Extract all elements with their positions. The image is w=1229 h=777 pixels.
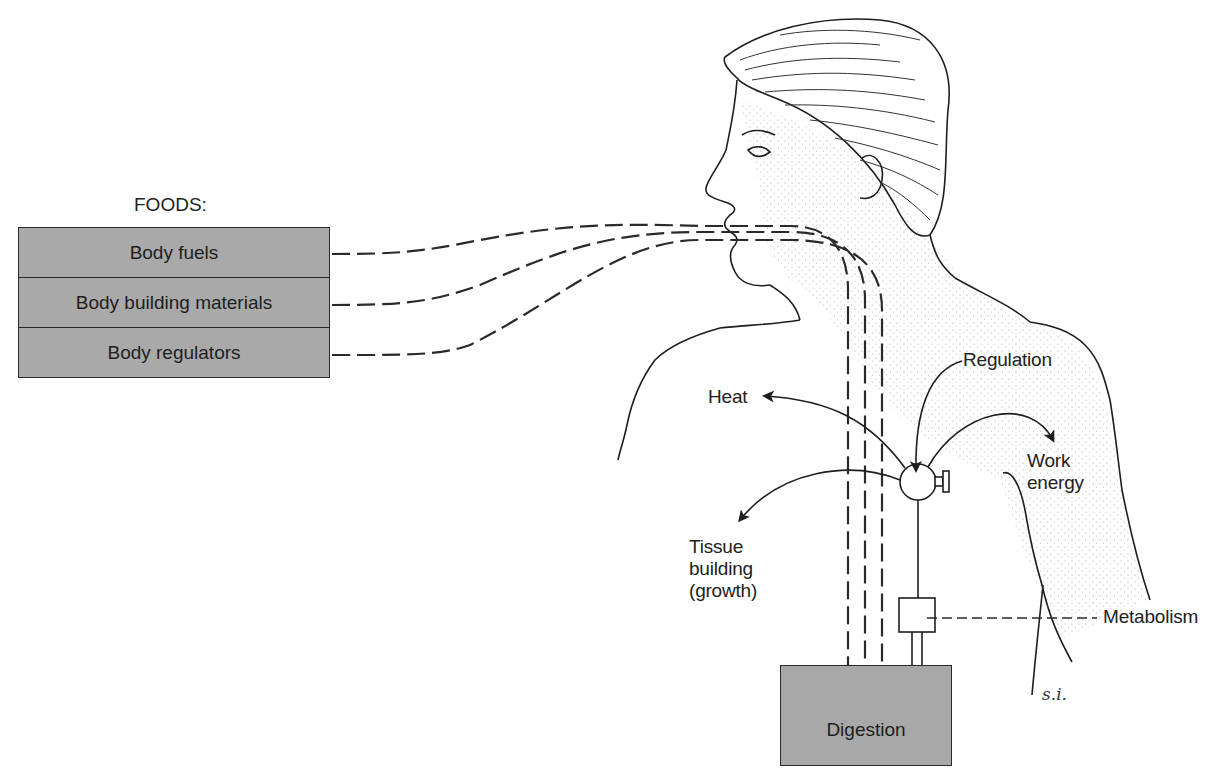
tissue-arrow	[740, 470, 900, 520]
label-digestion: Digestion	[826, 719, 905, 741]
artist-signature: s.i.	[1042, 684, 1067, 704]
regulator-path	[332, 240, 882, 690]
label-regulation: Regulation	[963, 349, 1052, 371]
digestion-box: Digestion	[780, 665, 952, 766]
building-path	[332, 232, 865, 690]
foods-table: Body fuels Body building materials Body …	[18, 227, 330, 378]
valve-handle-icon	[943, 471, 949, 492]
heat-arrow	[765, 396, 905, 468]
food-paths	[332, 225, 882, 690]
food-row-body-fuels: Body fuels	[19, 228, 329, 278]
label-energy: energy	[1027, 472, 1084, 494]
metabolism-apparatus	[899, 464, 949, 665]
food-row-body-regulators: Body regulators	[19, 328, 329, 378]
label-growth: (growth)	[689, 580, 757, 602]
label-metabolism: Metabolism	[1103, 606, 1198, 628]
label-work: Work	[1027, 450, 1070, 472]
foods-title: FOODS:	[134, 194, 207, 216]
diagram-illustration	[0, 0, 1229, 777]
regulator-valve-icon	[900, 464, 936, 500]
label-tissue: Tissue	[689, 536, 743, 558]
fuel-path	[332, 225, 848, 690]
label-building: building	[689, 558, 753, 580]
label-heat: Heat	[708, 386, 747, 408]
metabolism-box	[899, 598, 935, 632]
food-row-body-building-materials: Body building materials	[19, 278, 329, 328]
